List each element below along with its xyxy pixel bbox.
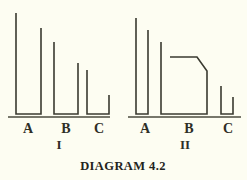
bar-i-a: [16, 13, 41, 114]
bar-label-i-b: B: [61, 121, 70, 136]
bar-i-c: [87, 70, 109, 114]
bar-ii-a: [136, 18, 148, 114]
diagram-figure: A B C I A B C II DIAGRAM 4.2: [0, 0, 247, 180]
diagram-canvas: A B C I A B C II DIAGRAM 4.2: [0, 0, 247, 180]
bar-ii-c: [221, 86, 233, 114]
bar-label-i-a: A: [23, 121, 34, 136]
panel-i: A B C I: [8, 13, 110, 152]
bar-i-b: [54, 42, 78, 114]
figure-caption: DIAGRAM 4.2: [80, 159, 166, 173]
bar-label-ii-a: A: [140, 121, 151, 136]
bar-label-ii-b: B: [184, 121, 193, 136]
panel-ii: A B C II: [128, 18, 241, 152]
bar-label-i-c: C: [94, 121, 104, 136]
bar-label-ii-c: C: [223, 121, 233, 136]
bar-ii-b: [161, 42, 207, 114]
panel-numeral-ii: II: [180, 137, 190, 152]
panel-numeral-i: I: [56, 137, 61, 152]
